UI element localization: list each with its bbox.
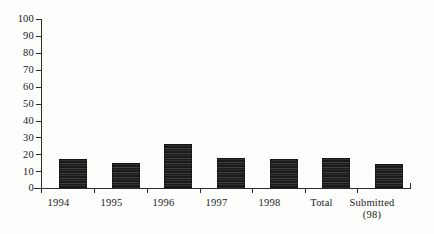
x-axis-label-1998: 1998 [243,197,296,209]
x-axis-tick-5 [305,188,306,193]
y-axis-label-90: 90 [0,31,34,42]
bar-submitted [375,164,403,188]
x-axis-label-submitted-main: Submitted [350,197,395,208]
y-axis-label-100: 100 [0,14,34,25]
bar-1995 [112,163,140,188]
x-axis-tick-3 [200,188,201,193]
x-axis-tick-1 [94,188,95,193]
x-axis-tick-0 [41,188,42,193]
x-axis-label-submitted-sub: (98) [340,209,404,221]
y-axis-label-10: 10 [0,167,34,178]
y-axis-label-60: 60 [0,82,34,93]
y-axis-label-20: 20 [0,150,34,161]
y-axis-label-80: 80 [0,48,34,59]
x-axis-label-1995: 1995 [85,197,138,209]
x-axis-label-1994: 1994 [32,197,85,209]
x-axis-end-cap [410,183,411,189]
bar-1998 [270,159,298,188]
x-axis-tick-2 [147,188,148,193]
bar-1994 [59,159,87,188]
y-axis-label-0: 0 [0,183,34,194]
x-axis-tick-4 [252,188,253,193]
x-axis-label-1996: 1996 [137,197,190,209]
y-axis-label-50: 50 [0,99,34,110]
bar-1997 [217,158,245,188]
bar-total [322,158,350,188]
x-axis-label-1997: 1997 [190,197,243,209]
y-axis-label-40: 40 [0,116,34,127]
y-axis-label-70: 70 [0,65,34,76]
x-axis-label-submitted: Submitted (98) [340,197,404,221]
x-axis-tick-6 [357,188,358,193]
plot-area [41,19,410,188]
x-axis-line [34,188,411,189]
bar-1996 [164,144,192,188]
y-axis-label-30: 30 [0,133,34,144]
bar-chart: 100 90 80 70 60 50 40 30 20 10 0 [0,0,434,234]
